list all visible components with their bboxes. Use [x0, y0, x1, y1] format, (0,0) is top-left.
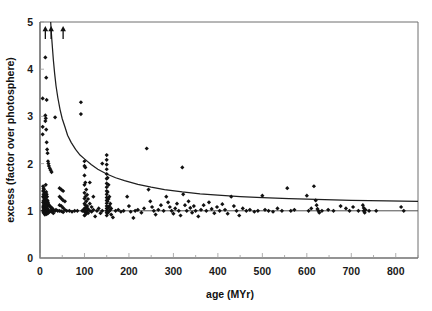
x-tick-label: 700 [343, 265, 361, 277]
x-tick-label: 300 [165, 265, 183, 277]
y-tick-label: 4 [27, 63, 33, 75]
y-tick-label: 5 [27, 16, 33, 28]
x-tick-label: 200 [120, 265, 138, 277]
y-tick-label: 0 [27, 252, 33, 264]
y-tick-label: 2 [27, 158, 33, 170]
x-tick-label: 500 [254, 265, 272, 277]
x-axis-tick-labels: 0100200300400500600700800 [37, 265, 405, 277]
x-tick-label: 800 [387, 265, 405, 277]
y-tick-label: 3 [27, 110, 33, 122]
y-tick-label: 1 [27, 205, 33, 217]
x-tick-label: 600 [298, 265, 316, 277]
x-axis-title: age (MYr) [206, 288, 254, 300]
scatter-plot-figure: 0100200300400500600700800 012345 age (MY… [0, 0, 432, 311]
y-axis-title: excess (factor over photosphere) [4, 57, 16, 223]
x-tick-label: 0 [37, 265, 43, 277]
plot-canvas: 0100200300400500600700800 012345 age (MY… [0, 0, 432, 311]
x-tick-label: 100 [76, 265, 94, 277]
x-tick-label: 400 [209, 265, 227, 277]
